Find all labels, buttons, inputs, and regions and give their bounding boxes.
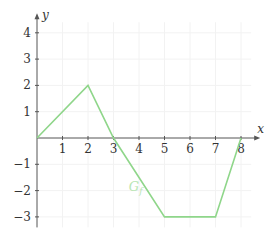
y-axis-label: y [41,8,49,22]
y-axis-arrow-icon [35,13,40,19]
x-tick-label: 1 [59,142,67,156]
graph-label-main: G [129,179,139,194]
grid [37,22,251,227]
y-tick-label: −2 [13,184,31,198]
y-tick-label: 3 [23,52,31,66]
y-tick-label: 2 [23,78,31,92]
x-tick-label: 4 [135,142,143,156]
x-tick-labels: 12345678 [59,142,245,156]
y-tick-label: 1 [23,105,31,119]
y-tick-label: 4 [23,26,31,40]
x-tick-label: 2 [84,142,92,156]
x-tick-label: 7 [212,142,220,156]
y-tick-label: −1 [13,157,31,171]
x-axis-label: x [257,122,264,136]
y-tick-label: −3 [13,210,31,224]
function-plot: 12345678 −3−2−11234 x y Gf [0,0,267,242]
x-tick-label: 3 [110,142,118,156]
x-tick-label: 6 [186,142,194,156]
axes [35,13,261,227]
y-tick-labels: −3−2−11234 [13,26,31,224]
x-tick-label: 5 [161,142,169,156]
x-axis-arrow-icon [254,136,260,141]
